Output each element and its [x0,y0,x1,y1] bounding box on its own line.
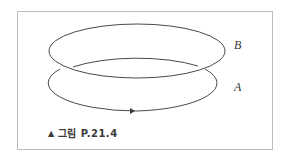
triangle-marker-icon: ▲ [48,129,55,138]
label-loop-b: B [234,38,241,53]
loops-diagram [0,0,286,159]
caption-text: 그림 P.21.4 [58,128,118,139]
figure-caption: ▲그림 P.21.4 [48,125,118,140]
loop-a-top [73,58,198,67]
loop-a-front [48,69,217,111]
loop-b [49,24,225,78]
current-direction-arrow-icon [130,108,135,114]
label-loop-a: A [234,80,241,95]
